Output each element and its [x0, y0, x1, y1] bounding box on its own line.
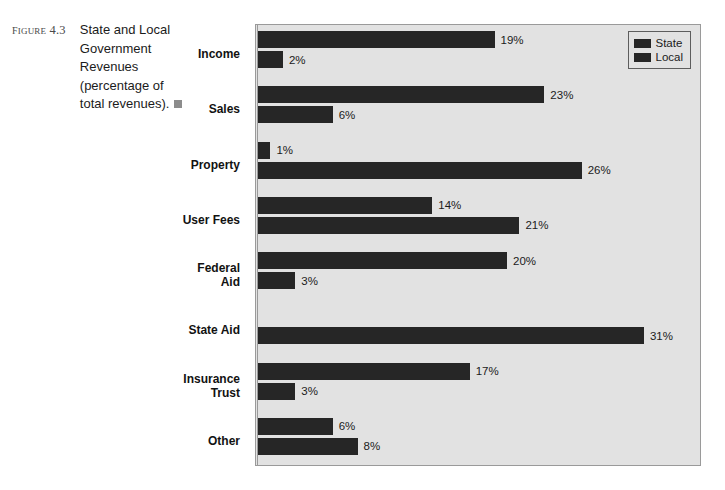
category-axis-labels: IncomeSalesPropertyUser FeesFederalAidSt…	[0, 24, 248, 466]
category-label: User Fees	[40, 213, 240, 227]
category-label: Property	[40, 158, 240, 172]
bar-fill	[258, 327, 644, 344]
category-label: FederalAid	[40, 261, 240, 289]
bar-fill	[258, 418, 333, 435]
legend-label: Local	[656, 51, 684, 63]
bar-fill	[258, 197, 432, 214]
bar-fill	[258, 31, 495, 48]
chart-row: 31%	[256, 302, 700, 354]
bar-state: 17%	[258, 363, 470, 380]
chart-bars-container: 19%2%23%6%1%26%14%21%20%3%31%17%3%6%8%	[256, 25, 700, 465]
bar-state: 6%	[258, 418, 333, 435]
bar-value-label: 6%	[339, 109, 356, 121]
bar-local: 26%	[258, 162, 582, 179]
bar-fill	[258, 217, 519, 234]
bar-local: 21%	[258, 217, 519, 234]
legend-label: State	[656, 37, 683, 49]
bar-fill	[258, 383, 295, 400]
bar-fill	[258, 272, 295, 289]
category-label: Sales	[40, 102, 240, 116]
bar-state: 14%	[258, 197, 432, 214]
category-label: State Aid	[40, 323, 240, 337]
chart-legend: StateLocal	[628, 31, 692, 69]
bar-fill	[258, 142, 270, 159]
bar-local: 3%	[258, 272, 295, 289]
bar-local: 6%	[258, 106, 333, 123]
bar-value-label: 31%	[650, 330, 673, 342]
chart-row: 14%21%	[256, 192, 700, 244]
bar-fill	[258, 363, 470, 380]
bar-state: 19%	[258, 31, 495, 48]
legend-swatch-icon	[634, 39, 651, 48]
bar-local: 31%	[258, 327, 644, 344]
bar-state: 20%	[258, 252, 507, 269]
bar-value-label: 20%	[513, 255, 536, 267]
bar-value-label: 17%	[476, 365, 499, 377]
bar-fill	[258, 438, 358, 455]
category-label: InsuranceTrust	[40, 372, 240, 400]
bar-fill	[258, 106, 333, 123]
bar-fill	[258, 51, 283, 68]
bar-fill	[258, 252, 507, 269]
bar-value-label: 23%	[550, 89, 573, 101]
bar-value-label: 8%	[364, 440, 381, 452]
bar-state: 1%	[258, 142, 270, 159]
bar-local: 8%	[258, 438, 358, 455]
category-label: Income	[40, 47, 240, 61]
bar-value-label: 1%	[276, 144, 293, 156]
chart-row: 23%6%	[256, 81, 700, 133]
chart-row: 17%3%	[256, 358, 700, 410]
bar-value-label: 26%	[588, 164, 611, 176]
legend-entry-local: Local	[634, 50, 684, 64]
bar-value-label: 3%	[301, 275, 318, 287]
bar-local: 3%	[258, 383, 295, 400]
chart-row: 6%8%	[256, 413, 700, 465]
bar-value-label: 21%	[525, 219, 548, 231]
legend-swatch-icon	[634, 53, 651, 62]
bar-state: 23%	[258, 86, 544, 103]
bar-local: 2%	[258, 51, 283, 68]
category-label: Other	[40, 434, 240, 448]
chart-plot-area: 19%2%23%6%1%26%14%21%20%3%31%17%3%6%8% S…	[255, 24, 701, 466]
bar-fill	[258, 162, 582, 179]
legend-entry-state: State	[634, 36, 684, 50]
chart-row: 1%26%	[256, 137, 700, 189]
bar-value-label: 14%	[438, 199, 461, 211]
bar-value-label: 6%	[339, 420, 356, 432]
bar-value-label: 3%	[301, 385, 318, 397]
bar-value-label: 19%	[501, 34, 524, 46]
chart-row: 20%3%	[256, 247, 700, 299]
bar-value-label: 2%	[289, 54, 306, 66]
bar-fill	[258, 86, 544, 103]
